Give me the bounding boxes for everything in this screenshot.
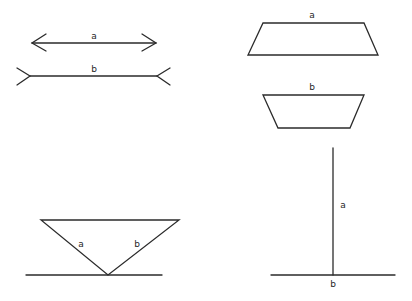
label-b: b: [330, 279, 336, 289]
trapezoid-a: [248, 23, 378, 55]
label-a: a: [340, 200, 346, 210]
trapezoid-panel: a b: [248, 10, 378, 128]
label-a: a: [91, 31, 97, 41]
inverted-triangle-panel: a b: [26, 220, 179, 275]
label-b: b: [91, 64, 97, 74]
label-b: b: [309, 82, 315, 92]
label-a: a: [78, 239, 84, 249]
label-b: b: [134, 239, 140, 249]
label-a: a: [309, 10, 315, 20]
illusions-diagram: a b a b a b a b: [0, 0, 412, 301]
inverted-triangle: [41, 220, 179, 275]
vertical-horizontal-panel: a b: [271, 148, 395, 289]
trapezoid-b: [263, 95, 364, 128]
muller-lyer-panel: a b: [17, 31, 170, 85]
